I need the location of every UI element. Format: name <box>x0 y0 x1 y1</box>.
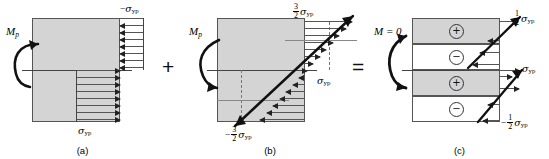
fraction-three-halves-b: 32 <box>293 3 299 20</box>
stress-label-mid-c: σyp <box>522 64 535 75</box>
stress-block-top-cap-a <box>120 18 143 19</box>
stress-label-mid-b: σyp <box>317 76 330 87</box>
stress-label-top-c: 12σyp <box>513 10 534 27</box>
stress-arrow-top-a <box>120 46 143 47</box>
stress-label-top-b: 32σyp <box>292 3 313 20</box>
stress-label-top-a: −σyp <box>120 4 139 15</box>
stress-label-bottom-a: σyp <box>78 126 91 137</box>
stress-arrow-bottom-a <box>77 119 120 120</box>
stress-arrow-bottom-a <box>77 84 120 85</box>
fraction-one-half-c: 12 <box>514 10 520 27</box>
stress-arrow-top-a <box>120 25 143 26</box>
stress-arrow-bottom-a <box>77 112 120 113</box>
stress-arrow-top-a <box>120 39 143 40</box>
panel-b-elastic-unloading: Mp 32σyp σyp −32σyp (b) <box>185 0 355 159</box>
panel-c-residual-stress: + − + − M = 0 12σyp <box>370 0 549 159</box>
operator-plus: + <box>162 55 174 79</box>
fraction-three-halves-neg-b: 32 <box>231 126 237 143</box>
stress-arrow-top-a <box>120 67 143 68</box>
moment-arrow-a <box>8 30 42 90</box>
stress-envelope-top-a <box>143 18 144 70</box>
stress-label-bottom-b: −32σyp <box>225 126 252 143</box>
stress-arrow-bottom-a <box>77 77 120 78</box>
caption-c: (c) <box>370 145 549 156</box>
stress-label-bottom-c: −12σyp <box>501 114 528 131</box>
stress-decomposition-figure: Mp −σyp σyp (a) + <box>0 0 549 159</box>
caption-b: (b) <box>185 145 355 156</box>
moment-label-c: M = 0 <box>374 25 402 37</box>
stress-arrow-top-a <box>120 32 143 33</box>
moment-arrow-b <box>193 30 227 90</box>
moment-label-a: Mp <box>6 25 19 39</box>
moment-arrow-c <box>382 28 416 90</box>
stress-arrow-bottom-a <box>77 91 120 92</box>
moment-label-b: Mp <box>189 25 202 39</box>
panel-a-fully-plastic: Mp −σyp σyp (a) <box>0 0 165 159</box>
stress-arrow-bottom-a <box>77 98 120 99</box>
stress-arrow-top-a <box>120 60 143 61</box>
stress-arrow-bottom-a <box>77 105 120 106</box>
stress-arrow-bottom-a <box>77 70 120 71</box>
fraction-one-half-neg-c: 12 <box>507 114 513 131</box>
caption-a: (a) <box>0 145 165 156</box>
stress-arrow-top-a <box>120 53 143 54</box>
operator-equals: = <box>352 55 364 79</box>
